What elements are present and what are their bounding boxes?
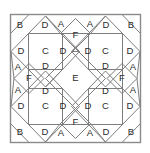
label-c-top-left: C (42, 45, 49, 56)
label-f-top: F (73, 29, 79, 40)
label-f-left: F (26, 72, 32, 83)
label-a-right-upper: A (130, 61, 137, 72)
label-a-top-left: A (58, 18, 65, 29)
label-d-top-left: D (42, 19, 49, 30)
label-f-right: F (119, 72, 125, 83)
label-c-top-right: C (102, 45, 109, 56)
label-a-top-right: A (87, 18, 94, 29)
label-a-bottom-right: A (87, 127, 94, 138)
label-c-bottom-right: C (102, 100, 109, 111)
label-d-right-lower: D (127, 100, 134, 111)
label-d-inner-tr-left: D (85, 45, 92, 56)
label-d-inner-bl-right: D (60, 100, 67, 111)
label-a-left-lower: A (15, 84, 22, 95)
label-b-top-right: B (128, 19, 134, 30)
label-b-bottom-left: B (17, 126, 23, 137)
label-d-left-lower: D (18, 100, 25, 111)
label-a-bottom-left: A (58, 127, 65, 138)
tiling-diagram: B D A A D B F D C D D C D A A D D F E F … (0, 0, 150, 153)
label-d-bottom-left: D (42, 126, 49, 137)
label-d-inner-top-right: D (102, 60, 109, 71)
label-d-right-upper: D (127, 45, 134, 56)
label-d-top-right: D (103, 19, 110, 30)
label-d-inner-bot-left: D (42, 85, 49, 96)
tiling-figure: B D A A D B F D C D D C D A A D D F E F … (0, 0, 150, 153)
label-f-bottom: F (73, 116, 79, 127)
label-d-inner-br-left: D (85, 100, 92, 111)
label-e-center: E (72, 72, 78, 83)
label-d-left-upper: D (18, 45, 25, 56)
label-d-inner-top-left: D (42, 60, 49, 71)
label-d-bottom-right: D (103, 126, 110, 137)
label-a-left-upper: A (15, 61, 22, 72)
label-b-bottom-right: B (128, 126, 134, 137)
label-a-right-lower: A (130, 84, 137, 95)
label-c-bottom-left: C (42, 100, 49, 111)
label-d-inner-tl-right: D (60, 45, 67, 56)
label-d-inner-bot-right: D (102, 85, 109, 96)
label-b-top-left: B (17, 19, 23, 30)
